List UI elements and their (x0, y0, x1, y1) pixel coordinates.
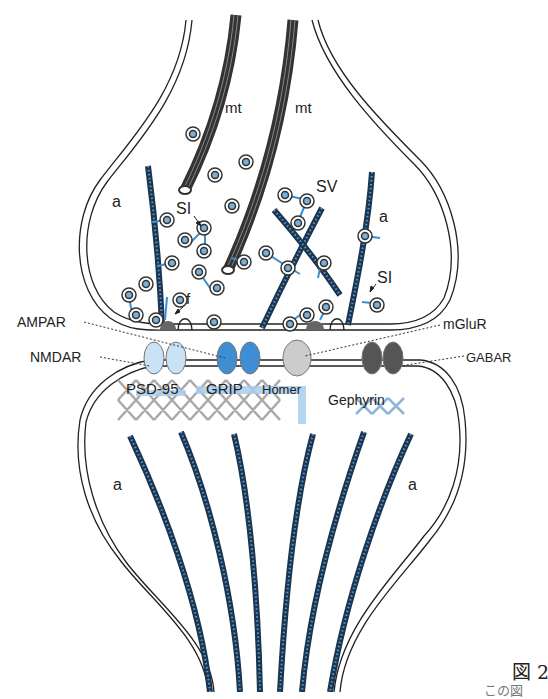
label-gabar: GABAR (466, 350, 512, 365)
ampar-receptor-2 (240, 342, 260, 374)
nmdar-receptor-1 (144, 342, 164, 374)
label-grip: GRIP (206, 380, 243, 397)
gabar-receptor-1 (362, 342, 382, 374)
label-nmdar: NMDAR (30, 349, 81, 365)
microtubules (179, 15, 295, 274)
label-f: f (186, 290, 191, 307)
gabar-receptor-2 (383, 342, 403, 374)
label-a-post-right: a (408, 476, 417, 493)
label-a-post-left: a (113, 476, 122, 493)
label-homer: Homer (262, 382, 302, 397)
label-a-pre-right: a (379, 208, 388, 225)
label-mglur: mGluR (443, 316, 487, 332)
label-a-pre-left: a (112, 193, 121, 210)
ampar-receptor-1 (217, 342, 237, 374)
label-si-right: SI (377, 269, 392, 286)
postsynaptic-actin (130, 432, 411, 692)
receptors (144, 340, 403, 376)
label-ampar: AMPAR (17, 314, 66, 330)
label-psd95: PSD-95 (126, 380, 179, 397)
presynaptic-proteins (160, 321, 324, 330)
label-si-left: SI (176, 200, 191, 217)
label-gephyrin: Gephyrin (328, 392, 385, 408)
label-mt-left: mt (225, 99, 242, 116)
mglur-receptor (283, 340, 311, 376)
label-mt-right: mt (295, 99, 312, 116)
nmdar-receptor-2 (166, 342, 186, 374)
label-sv: SV (316, 178, 338, 195)
figure-caption-fragment: この図 (484, 680, 523, 699)
